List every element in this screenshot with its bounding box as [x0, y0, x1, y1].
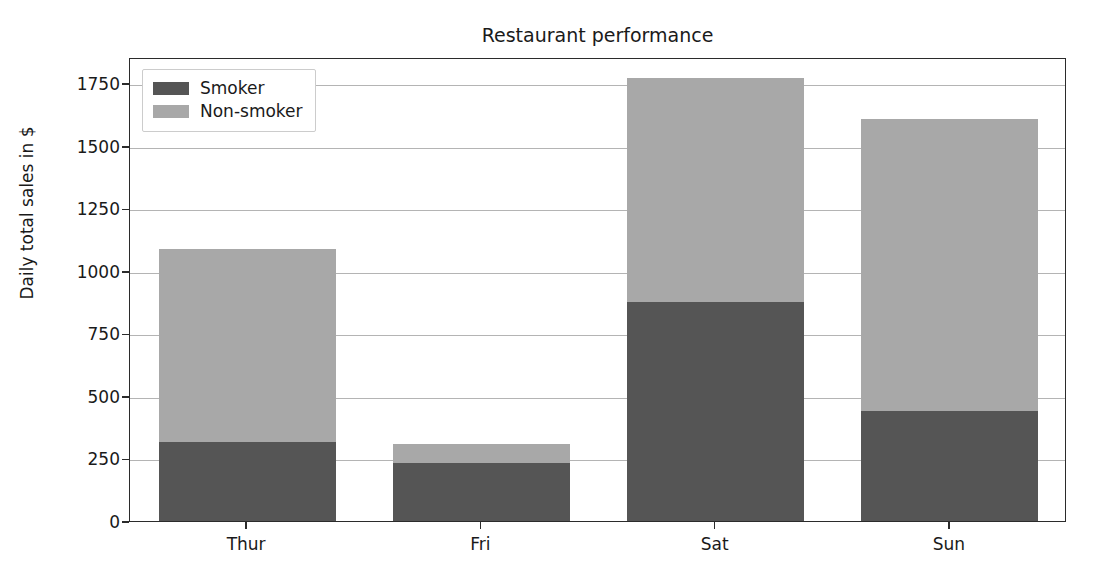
chart-legend[interactable]: SmokerNon-smoker [142, 69, 316, 132]
bar-segment-sun-smoker [861, 411, 1038, 521]
y-tick-label: 1250 [77, 201, 120, 218]
y-tick-mark [122, 83, 129, 85]
x-tick-mark [948, 522, 950, 529]
y-tick-mark [122, 396, 129, 398]
bar-segment-fri-non-smoker [393, 444, 570, 463]
y-tick-label: 250 [88, 451, 120, 468]
x-tick-label-thur: Thur [227, 534, 266, 554]
y-tick-label: 1750 [77, 76, 120, 93]
x-axis-group: ThurFriSatSun [129, 522, 1066, 572]
bar-segment-sat-smoker [627, 302, 804, 521]
y-tick-label: 1000 [77, 263, 120, 280]
legend-item[interactable]: Non-smoker [153, 100, 303, 123]
bar-segment-fri-smoker [393, 463, 570, 521]
y-tick-mark [122, 146, 129, 148]
y-tick-label: 750 [88, 326, 120, 343]
y-tick-label: 500 [88, 388, 120, 405]
plot-frame: SmokerNon-smoker [129, 58, 1066, 522]
y-tick-label: 0 [109, 514, 120, 531]
y-tick-mark [122, 209, 129, 211]
x-tick-mark [245, 522, 247, 529]
y-tick-mark [122, 271, 129, 273]
x-tick-mark [714, 522, 716, 529]
x-tick-label-sun: Sun [933, 534, 965, 554]
y-tick-mark [122, 521, 129, 523]
legend-swatch-icon [153, 82, 189, 95]
y-tick-mark [122, 459, 129, 461]
x-tick-mark [480, 522, 482, 529]
chart-title: Restaurant performance [129, 24, 1066, 46]
legend-item[interactable]: Smoker [153, 77, 303, 100]
chart-figure: Restaurant performance Daily total sales… [0, 0, 1115, 574]
bar-segment-sun-non-smoker [861, 119, 1038, 411]
bar-segment-thur-smoker [159, 442, 336, 521]
bar-segment-sat-non-smoker [627, 78, 804, 302]
legend-label: Non-smoker [200, 102, 303, 121]
bar-segment-thur-non-smoker [159, 249, 336, 442]
y-tick-label: 1500 [77, 138, 120, 155]
legend-label: Smoker [200, 79, 264, 98]
y-tick-label-group: 02505007501000125015001750 [34, 58, 120, 522]
legend-swatch-icon [153, 105, 189, 118]
y-tick-mark [122, 334, 129, 336]
x-tick-label-fri: Fri [470, 534, 490, 554]
x-tick-label-sat: Sat [701, 534, 729, 554]
